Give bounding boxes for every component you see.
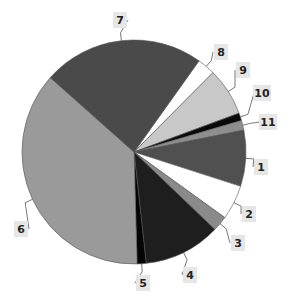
slice-label-8: 8 (217, 46, 225, 59)
leader-line-11 (243, 122, 260, 125)
slice-label-10: 10 (254, 87, 270, 100)
leader-line-2 (234, 203, 241, 214)
slice-label-4: 4 (186, 269, 194, 282)
leader-line-9 (228, 70, 235, 92)
slice-label-11: 11 (260, 116, 275, 129)
slice-label-1: 1 (257, 161, 265, 174)
slice-label-9: 9 (239, 64, 247, 77)
slice-label-3: 3 (234, 237, 242, 250)
leader-line-3 (220, 224, 230, 243)
leader-line-10 (240, 93, 254, 117)
slice-label-5: 5 (139, 277, 147, 290)
leader-line-8 (206, 52, 213, 66)
slice-label-6: 6 (17, 223, 25, 236)
slice-label-2: 2 (245, 208, 253, 221)
pie-chart: 8910111234567 (0, 0, 292, 302)
leader-line-1 (246, 158, 254, 167)
pie-slices (22, 40, 246, 264)
slice-label-7: 7 (116, 14, 124, 27)
